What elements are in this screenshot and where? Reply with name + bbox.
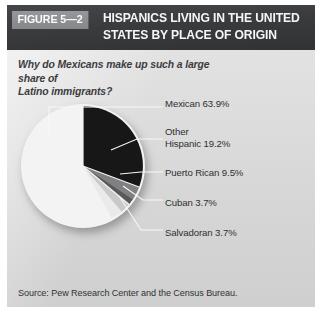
figure-title: HISPANICS LIVING IN THE UNITED STATES BY… <box>103 10 300 43</box>
pie-label-cuban: Cuban 3.7% <box>165 197 217 209</box>
pie-label-salvadoran: Salvadoran 3.7% <box>165 227 237 239</box>
figure-header-bar: FIGURE 5—2 HISPANICS LIVING IN THE UNITE… <box>7 5 315 50</box>
figure-subtitle: Why do Mexicans make up such a large sha… <box>18 58 233 99</box>
pie-label-other-hispanic-line-1: Other <box>165 126 230 138</box>
figure-source-note: Source: Pew Research Center and the Cens… <box>18 288 237 298</box>
pie-label-other-hispanic: Other Hispanic 19.2% <box>165 126 230 149</box>
figure-content-panel: Why do Mexicans make up such a large sha… <box>7 50 315 307</box>
figure-box: FIGURE 5—2 HISPANICS LIVING IN THE UNITE… <box>0 0 321 315</box>
pie-label-other-hispanic-line-2: Hispanic 19.2% <box>165 138 230 150</box>
pie-label-mexican: Mexican 63.9% <box>165 98 229 110</box>
figure-title-line-1: HISPANICS LIVING IN THE UNITED <box>103 10 300 27</box>
pie-chart <box>21 104 145 228</box>
figure-number-badge: FIGURE 5—2 <box>12 11 88 29</box>
pie-slices-svg <box>23 106 143 226</box>
figure-subtitle-line-1: Why do Mexicans make up such a large sha… <box>18 58 233 85</box>
figure-title-line-2: STATES BY PLACE OF ORIGIN <box>103 27 300 44</box>
pie-label-puerto-rican: Puerto Rican 9.5% <box>165 167 243 179</box>
figure-subtitle-line-2: Latino immigrants? <box>18 85 233 99</box>
pie-disc <box>23 106 143 226</box>
